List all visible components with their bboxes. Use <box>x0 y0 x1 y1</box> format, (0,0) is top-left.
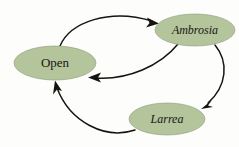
edge-ambrosia-to-larrea <box>201 45 224 109</box>
node-larrea-label: Larrea <box>150 112 184 126</box>
edge-ambrosia-to-open-path <box>96 44 178 78</box>
node-larrea[interactable]: Larrea <box>129 103 205 135</box>
node-ambrosia[interactable]: Ambrosia <box>155 14 235 46</box>
node-open[interactable]: Open <box>14 46 96 80</box>
diagram-canvas: Open Ambrosia Larrea <box>0 0 239 147</box>
edge-open-to-ambrosia <box>60 16 159 46</box>
edge-ambrosia-to-open <box>88 44 178 83</box>
diagram-svg: Open Ambrosia Larrea <box>0 0 239 147</box>
edge-larrea-to-open-arrowhead <box>53 81 62 95</box>
edge-ambrosia-to-larrea-arrowhead <box>201 100 213 109</box>
node-ambrosia-label: Ambrosia <box>171 23 218 37</box>
edge-open-to-ambrosia-path <box>60 16 152 46</box>
node-open-label: Open <box>41 55 70 70</box>
edge-larrea-to-open <box>53 81 135 133</box>
edge-ambrosia-to-larrea-path <box>208 45 224 103</box>
edge-larrea-to-open-path <box>57 88 135 133</box>
